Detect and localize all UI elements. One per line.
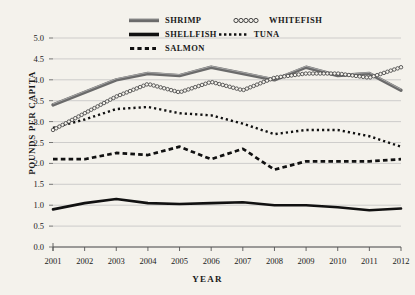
- series-salmon: [53, 147, 401, 170]
- series-tuna: [53, 107, 401, 147]
- fish-consumption-line-chart: SHRIMP WHITEFISH: [0, 0, 415, 295]
- series-shellfish: [53, 199, 401, 210]
- plot-area: [0, 0, 415, 295]
